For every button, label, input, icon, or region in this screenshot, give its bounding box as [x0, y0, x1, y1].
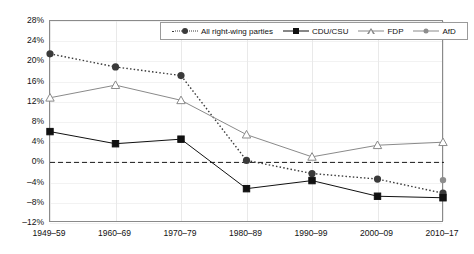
series-line	[50, 54, 443, 193]
x-axis-tick-label: 1970–79	[163, 228, 196, 238]
legend-marker-icon	[172, 26, 198, 36]
x-axis-tick-label: 1949–59	[32, 228, 65, 238]
legend-marker-icon	[283, 26, 309, 36]
data-point-marker	[308, 170, 315, 177]
legend-item-fdp[interactable]: FDP	[358, 26, 403, 36]
chart-container: 28%24%20%16%12%8%4%0%–4%–8%–12% 1949–591…	[0, 0, 474, 254]
data-point-marker	[243, 185, 249, 191]
legend-marker-icon	[413, 26, 439, 36]
data-point-marker	[112, 63, 119, 70]
data-point-marker	[178, 136, 184, 142]
y-axis-tick-label: –8%	[0, 197, 44, 207]
y-axis-tick-label: 24%	[0, 35, 44, 45]
data-point-marker	[177, 72, 184, 79]
legend-marker-icon	[358, 26, 384, 36]
data-point-marker	[111, 81, 119, 89]
data-point-marker	[242, 130, 250, 138]
y-axis-tick-label: 12%	[0, 96, 44, 106]
data-point-marker	[112, 141, 118, 147]
data-point-marker	[243, 157, 250, 164]
data-point-marker	[440, 195, 446, 201]
data-point-marker	[439, 138, 447, 146]
x-axis-tick-label: 1980–89	[229, 228, 262, 238]
y-axis-tick-label: –12%	[0, 217, 44, 227]
legend-item-label: FDP	[387, 27, 403, 36]
data-point-marker	[374, 193, 380, 199]
legend-item-cdu-csu[interactable]: CDU/CSU	[283, 26, 348, 36]
x-axis-tick-label: 2010–17	[425, 228, 458, 238]
grid-line-horizontal	[50, 223, 442, 224]
legend-item-all-right-wing-parties[interactable]: All right-wing parties	[172, 26, 273, 36]
data-point-marker	[47, 128, 53, 134]
chart-legend: All right-wing partiesCDU/CSUFDPAfD	[160, 22, 468, 40]
y-axis-tick-label: 0%	[0, 156, 44, 166]
data-point-marker	[374, 175, 381, 182]
y-axis-tick-label: 28%	[0, 15, 44, 25]
y-axis-tick-label: 16%	[0, 76, 44, 86]
legend-item-label: AfD	[442, 27, 455, 36]
x-axis-tick-label: 1960–69	[98, 228, 131, 238]
legend-item-label: CDU/CSU	[312, 27, 348, 36]
plot-area	[49, 20, 443, 222]
y-axis-tick-label: –4%	[0, 177, 44, 187]
legend-item-afd[interactable]: AfD	[413, 26, 455, 36]
y-axis-tick-label: 8%	[0, 116, 44, 126]
x-axis-tick-label: 2000–09	[360, 228, 393, 238]
y-axis-tick-label: 4%	[0, 136, 44, 146]
y-axis-tick-label: 20%	[0, 55, 44, 65]
legend-item-label: All right-wing parties	[201, 27, 273, 36]
data-point-marker	[309, 177, 315, 183]
data-point-marker	[440, 177, 446, 183]
series-layer	[50, 21, 444, 223]
series-line	[50, 85, 443, 157]
x-axis-tick-label: 1990–99	[294, 228, 327, 238]
data-point-marker	[46, 50, 53, 57]
